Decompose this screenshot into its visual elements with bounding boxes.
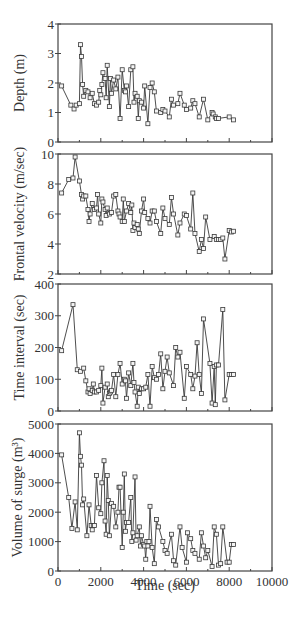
data-point-marker — [150, 81, 154, 85]
data-point-marker — [97, 388, 101, 392]
data-point-marker — [182, 103, 186, 107]
data-point-marker — [114, 87, 118, 91]
plot-frame — [58, 24, 272, 142]
y-tick-label: 5000 — [28, 417, 54, 432]
data-point-marker — [116, 75, 120, 79]
data-point-marker — [124, 84, 128, 88]
data-point-marker — [165, 355, 169, 359]
data-point-marker — [82, 94, 86, 98]
y-tick-label: 8 — [48, 177, 55, 192]
data-point-marker — [146, 544, 150, 548]
data-point-marker — [157, 372, 161, 376]
data-point-marker — [159, 232, 163, 236]
data-point-marker — [97, 100, 101, 104]
data-point-marker — [139, 534, 143, 538]
data-point-marker — [152, 90, 156, 94]
data-point-marker — [197, 372, 201, 376]
data-point-marker — [169, 532, 173, 536]
data-point-marker — [123, 529, 127, 533]
data-point-marker — [135, 404, 139, 408]
data-point-marker — [178, 221, 182, 225]
data-point-marker — [189, 227, 193, 231]
y-axis-label: Depth (m) — [12, 54, 28, 112]
data-point-marker — [134, 538, 138, 542]
data-point-marker — [219, 562, 223, 566]
data-point-marker — [165, 551, 169, 555]
y-axis-label: Volume of surge (m³) — [10, 437, 26, 557]
data-point-marker — [60, 453, 64, 457]
data-point-marker — [221, 525, 225, 529]
data-point-marker — [118, 361, 122, 365]
data-point-marker — [223, 398, 227, 402]
data-point-marker — [202, 247, 206, 251]
data-point-marker — [133, 390, 137, 394]
data-point-marker — [148, 404, 152, 408]
y-tick-label: 3000 — [28, 475, 54, 490]
data-point-marker — [231, 372, 235, 376]
data-point-marker — [118, 485, 122, 489]
data-point-marker — [172, 384, 176, 388]
data-point-marker — [112, 372, 116, 376]
data-point-marker — [80, 54, 84, 58]
data-point-marker — [135, 534, 139, 538]
data-point-marker — [103, 519, 107, 523]
data-point-marker — [60, 349, 64, 353]
data-point-marker — [184, 108, 188, 112]
data-point-marker — [116, 372, 120, 376]
data-point-marker — [77, 179, 81, 183]
data-point-marker — [191, 191, 195, 195]
data-point-marker — [167, 371, 171, 375]
data-point-marker — [97, 212, 101, 216]
data-point-marker — [127, 371, 131, 375]
data-point-marker — [105, 206, 109, 210]
data-point-marker — [189, 106, 193, 110]
data-point-marker — [135, 223, 139, 227]
data-point-marker — [60, 191, 64, 195]
data-point-marker — [180, 545, 184, 549]
data-point-marker — [143, 211, 147, 215]
data-point-marker — [167, 223, 171, 227]
data-point-marker — [101, 200, 105, 204]
data-point-marker — [72, 107, 76, 111]
y-tick-label: 10 — [41, 147, 54, 162]
data-point-marker — [184, 365, 188, 369]
data-point-marker — [137, 232, 141, 236]
data-point-marker — [154, 377, 158, 381]
y-axis-label: Frontal velocity (m/sec) — [12, 146, 28, 281]
data-point-marker — [199, 238, 203, 242]
data-point-marker — [84, 379, 88, 383]
data-point-marker — [73, 155, 77, 159]
data-point-marker — [217, 363, 221, 367]
data-point-marker — [131, 531, 135, 535]
data-point-marker — [204, 556, 208, 560]
data-point-marker — [193, 102, 197, 106]
data-point-marker — [121, 510, 125, 514]
data-point-marker — [174, 346, 178, 350]
data-point-marker — [67, 496, 71, 500]
data-point-marker — [100, 366, 104, 370]
data-point-marker — [132, 100, 136, 104]
data-point-marker — [144, 385, 148, 389]
data-point-marker — [163, 217, 167, 221]
data-point-marker — [152, 562, 156, 566]
data-point-marker — [103, 77, 107, 81]
data-point-marker — [139, 100, 143, 104]
data-point-marker — [124, 209, 128, 213]
data-point-marker — [159, 352, 163, 356]
data-point-marker — [99, 221, 103, 225]
data-point-marker — [221, 236, 225, 240]
data-point-marker — [90, 202, 94, 206]
y-tick-label: 1000 — [28, 534, 54, 549]
y-tick-label: 200 — [35, 340, 55, 355]
data-point-marker — [131, 361, 135, 365]
data-point-marker — [148, 221, 152, 225]
data-point-marker — [163, 109, 167, 113]
data-point-marker — [202, 97, 206, 101]
data-point-marker — [86, 208, 90, 212]
data-point-marker — [157, 525, 161, 529]
y-tick-label: 4 — [48, 237, 55, 252]
data-point-marker — [202, 544, 206, 548]
data-point-marker — [142, 197, 146, 201]
data-point-marker — [98, 88, 102, 92]
data-point-marker — [152, 209, 156, 213]
